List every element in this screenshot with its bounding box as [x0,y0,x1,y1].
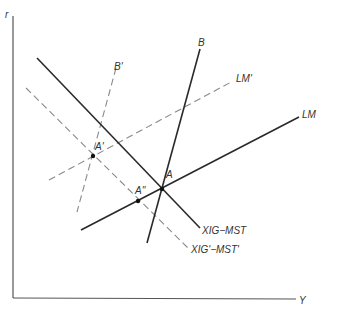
lm-prime-label: LM' [236,73,253,84]
xig-mst-prime-curve [26,88,188,248]
r-axis-label: r [5,9,9,20]
lm-curve [81,117,299,230]
point-a-double-prime [136,199,140,203]
b-prime-label: B' [114,61,124,72]
is-lm-bp-diagram: r Y B B' LM' LM XIG−MST XIG'−MST' A A' A… [0,0,337,319]
xig-mst-curve [37,58,200,228]
b-curve [147,49,200,243]
a-double-prime-label: A'' [134,185,147,196]
a-label: A [165,169,173,180]
xig-mst-prime-label: XIG'−MST' [190,244,240,255]
point-a-prime [91,154,95,158]
b-label: B [198,37,205,48]
b-prime-curve [77,68,116,212]
y-axis [13,298,296,299]
y-axis-label: Y [299,295,307,306]
point-a [160,187,164,191]
a-prime-label: A' [94,141,105,152]
xig-mst-label: XIG−MST [201,225,247,236]
lm-label: LM [302,109,317,120]
